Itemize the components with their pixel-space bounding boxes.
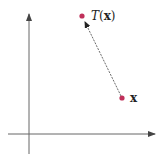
mapping-arrow <box>85 22 121 96</box>
label-tx-close: ) <box>111 9 116 23</box>
label-tx-arg: x <box>104 9 111 23</box>
point-x <box>119 95 124 100</box>
point-tx <box>79 13 84 18</box>
label-x: x <box>130 92 137 104</box>
diagram-canvas <box>0 0 165 160</box>
label-tx-func: T <box>91 9 99 23</box>
label-tx: T(x) <box>91 10 116 22</box>
